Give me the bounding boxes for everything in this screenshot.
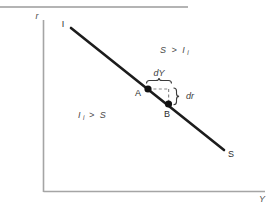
y-axis-label: r [36,11,40,21]
svg-text:S > I: S > I i [160,45,189,56]
curve-label-i: I [62,19,65,29]
region-upper-second-sub: i [187,49,189,56]
brace-dY [147,78,172,84]
region-label-s-gt-i: S > I i [160,45,189,56]
point-b-label: B [164,109,170,119]
region-upper-second: I [182,45,185,55]
region-lower-main: I [78,110,81,120]
differential-dr-label: dr [186,91,195,101]
differential-dy-label: dY [153,68,165,78]
point-a-label: A [135,88,141,98]
region-lower-operator: > [89,110,94,120]
x-axis-label: Y [259,194,266,204]
region-label-i-gt-s: I i > S [78,110,106,122]
region-lower-main-sub: i [83,114,85,121]
is-curve-diagram: I S r Y A B dY dr S > I i I i > S [0,0,272,223]
point-b-marker [165,100,172,107]
curve-label-s: S [228,149,234,159]
region-lower-second: S [100,110,106,120]
region-upper-main: S [160,45,166,55]
figure-container: I S r Y A B dY dr S > I i I i > S [0,0,272,223]
region-upper-operator: > [172,45,177,55]
brace-dr [174,88,180,105]
point-a-marker [144,85,151,92]
svg-text:I i >: I i > S [78,110,106,122]
